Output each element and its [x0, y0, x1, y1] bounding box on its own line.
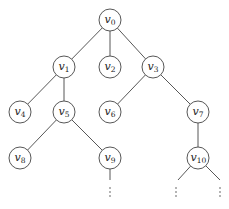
- edges: [28, 28, 198, 150]
- edge-v5-v9: [72, 120, 102, 150]
- edge-v0-v3: [117, 28, 145, 59]
- vertical-ellipsis-icon: [175, 187, 177, 197]
- open-edge-v10-1: [178, 166, 191, 180]
- edge-v1-v4: [28, 75, 57, 104]
- edge-v3-v6: [118, 75, 146, 104]
- tree-diagram: v0v1v2v3v4v5v6v7v8v9v10: [0, 0, 229, 209]
- vertical-ellipsis-icon: [219, 187, 221, 197]
- node-v10: v10: [187, 147, 209, 169]
- open-edge-v10-2: [206, 166, 220, 180]
- node-v9: v9: [99, 147, 121, 169]
- node-v0: v0: [99, 9, 121, 31]
- edge-v0-v1: [72, 28, 103, 59]
- node-v8: v8: [9, 147, 31, 169]
- nodes: v0v1v2v3v4v5v6v7v8v9v10: [9, 9, 209, 169]
- edge-v3-v7: [161, 75, 190, 104]
- node-v2: v2: [99, 56, 121, 78]
- node-v7: v7: [187, 101, 209, 123]
- vertical-ellipsis-icon: [109, 187, 111, 197]
- node-v3: v3: [142, 56, 164, 78]
- node-v4: v4: [9, 101, 31, 123]
- open-ends: [109, 166, 221, 197]
- node-v6: v6: [99, 101, 121, 123]
- edge-v5-v8: [28, 120, 57, 150]
- node-v5: v5: [53, 101, 75, 123]
- node-v1: v1: [53, 56, 75, 78]
